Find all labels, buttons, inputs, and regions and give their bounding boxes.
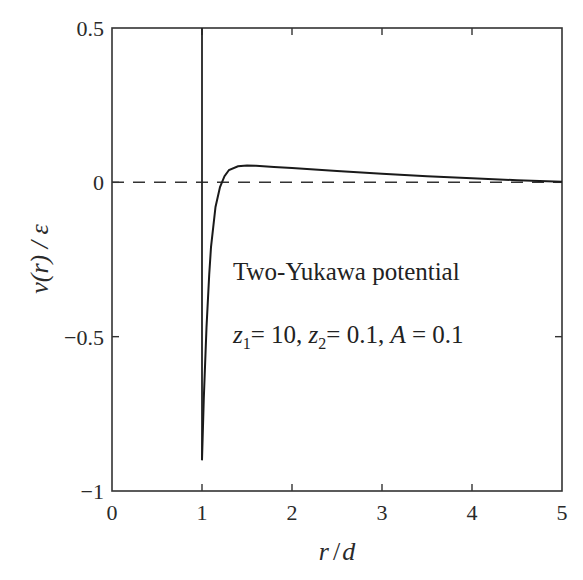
x-tick-label: 5 — [557, 500, 568, 525]
x-tick-label: 0 — [107, 500, 118, 525]
x-tick-label: 1 — [197, 500, 208, 525]
y-tick-label: 0 — [93, 170, 104, 195]
y-axis-label: v(r) / ε — [25, 224, 54, 294]
annotation-parameters: z1= 10, z2= 0.1, A = 0.1 — [232, 321, 464, 352]
potential-curve — [202, 165, 562, 460]
x-axis-label: r/d — [319, 537, 356, 566]
annotation-title: Two-Yukawa potential — [233, 258, 460, 285]
x-tick-label: 3 — [377, 500, 388, 525]
x-tick-label: 2 — [287, 500, 298, 525]
y-tick-label: −0.5 — [64, 325, 104, 350]
y-tick-label: −1 — [81, 479, 104, 504]
y-tick-label: 0.5 — [77, 16, 105, 41]
x-tick-label: 4 — [467, 500, 478, 525]
chart-canvas: 0123450.50−0.5−1 v(r) / ε r/d Two-Yukawa… — [0, 0, 583, 580]
